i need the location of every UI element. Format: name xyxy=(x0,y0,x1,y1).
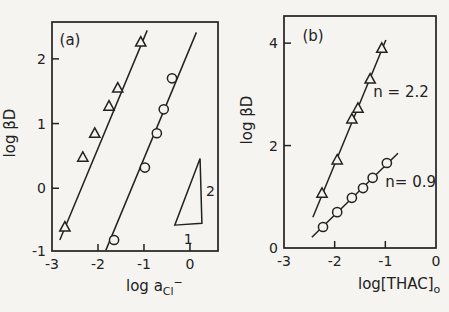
figure-page: -3-2-10-101221(a)log βDlog aCl−-3-2-1002… xyxy=(0,0,449,312)
y-tick-label: 1 xyxy=(37,116,46,132)
triangle-marker xyxy=(78,152,88,161)
circle-marker xyxy=(347,193,356,202)
y-tick-label: 0 xyxy=(37,180,46,196)
circle-marker xyxy=(318,222,327,231)
x-tick-label: -2 xyxy=(91,256,105,272)
x-tick-label: -1 xyxy=(137,256,151,272)
y-tick-label: 4 xyxy=(269,35,278,51)
slope-indicator xyxy=(175,158,202,225)
x-tick-label: 0 xyxy=(432,253,441,269)
x-tick-label: -3 xyxy=(45,256,59,272)
x-axis-label-part-base: log a xyxy=(126,277,163,295)
triangle-marker xyxy=(317,188,327,197)
x-axis-label-part-sup: − xyxy=(174,276,183,289)
y-axis-label: log βD xyxy=(1,109,19,158)
panel-label: (a) xyxy=(60,31,81,49)
y-tick-label: -1 xyxy=(32,243,46,259)
x-axis-label-part-base: log[THAC] xyxy=(358,275,433,293)
panel-a: -3-2-10-101221(a)log βDlog aCl− xyxy=(1,22,218,298)
x-axis-label: log[THAC]o xyxy=(358,275,440,296)
x-axis-label: log aCl− xyxy=(126,276,183,298)
triangle-marker xyxy=(113,83,123,92)
triangle-marker xyxy=(365,74,375,83)
circle-marker xyxy=(159,105,168,114)
triangle-marker xyxy=(332,155,342,164)
x-axis-label-part-sub: Cl xyxy=(163,285,174,298)
circle-marker xyxy=(333,208,342,217)
panel-b: -3-2-10024n = 2.2n= 0.9(b)log βDlog[THAC… xyxy=(238,16,440,296)
triangle-marker xyxy=(353,103,363,112)
slope-indicator-label: 2 xyxy=(206,183,215,199)
panel-b-frame xyxy=(284,16,436,248)
circle-marker xyxy=(152,129,161,138)
triangle-series-fit-line xyxy=(60,30,147,240)
slope-annotation: n = 2.2 xyxy=(373,83,428,101)
x-axis-label-part-sub: o xyxy=(433,283,440,296)
y-axis-label: log βD xyxy=(238,96,256,145)
circle-marker xyxy=(167,74,176,83)
x-tick-label: -1 xyxy=(378,253,392,269)
slope-indicator-label: 1 xyxy=(184,231,193,247)
circle-marker xyxy=(109,235,118,244)
triangle-marker xyxy=(90,128,100,137)
circle-marker xyxy=(382,158,391,167)
circle-marker xyxy=(140,163,149,172)
y-tick-label: 2 xyxy=(37,51,46,67)
x-tick-label: 0 xyxy=(185,256,194,272)
panel-a-frame xyxy=(52,22,218,251)
triangle-marker xyxy=(104,101,114,110)
y-tick-label: 0 xyxy=(269,240,278,256)
x-tick-label: -2 xyxy=(328,253,342,269)
log-log-plot-figure: -3-2-10-101221(a)log βDlog aCl−-3-2-1002… xyxy=(0,0,449,312)
circle-marker xyxy=(368,173,377,182)
panel-label: (b) xyxy=(302,27,323,45)
circle-marker xyxy=(358,183,367,192)
y-tick-label: 2 xyxy=(269,138,278,154)
x-tick-label: -3 xyxy=(277,253,291,269)
slope-annotation: n= 0.9 xyxy=(385,173,436,191)
triangle-marker xyxy=(60,222,70,231)
circle-series-fit-line xyxy=(106,32,197,250)
triangle-marker xyxy=(377,43,387,52)
